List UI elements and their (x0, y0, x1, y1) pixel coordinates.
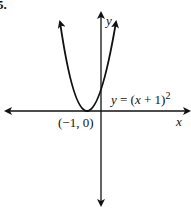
problem-number: 5. (0, 0, 7, 11)
x-axis-label: x (176, 115, 182, 128)
eq-eq: = ( (117, 92, 135, 107)
y-axis-label: y (106, 14, 112, 27)
eq-rest: + 1) (141, 92, 166, 107)
vertex-label: (−1, 0) (58, 116, 94, 129)
parabola-curve (60, 22, 116, 111)
equation-label: y = (x + 1)2 (111, 91, 170, 106)
eq-exp: 2 (165, 90, 170, 101)
